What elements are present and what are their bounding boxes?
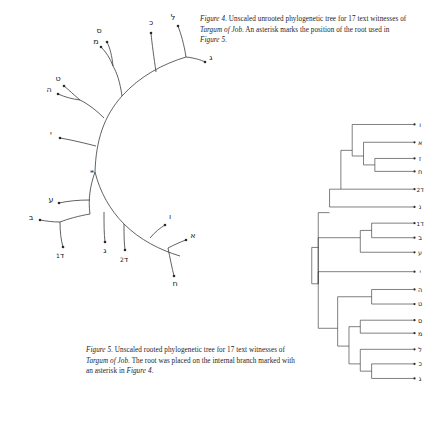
tip-label-samekh: ס: [96, 26, 101, 35]
root-asterisk-marker: *: [90, 168, 95, 178]
tip-label-dalet-2: 2ד: [120, 255, 129, 264]
rooted-tip-label-dalet-2: 2ד: [417, 186, 425, 194]
rooted-tip-label-chet: ח: [418, 168, 422, 176]
figure4-caption-part1: . Unscaled unrooted phylogenetic tree fo…: [225, 15, 406, 23]
tip-label-tet: ט: [55, 74, 60, 83]
tip-label-mem: מ: [93, 37, 98, 46]
tip-label-he: ה: [46, 85, 51, 94]
rooted-tip-dots: [413, 123, 415, 379]
rooted-tip-label-vav: ו: [419, 121, 421, 129]
tip-label-kaf: כ: [149, 18, 153, 27]
tip-label-chet: ח: [172, 279, 177, 288]
rooted-tip-label-lamed: ל: [418, 346, 422, 354]
tip-label-ayin: ע: [48, 195, 53, 204]
figure4-caption-end: .: [225, 36, 227, 44]
figure5-label: Figure 5: [86, 346, 111, 354]
figure4-crossref: Figure 5: [200, 36, 225, 44]
rooted-tip-label-dalet-1: 1ד: [417, 220, 425, 228]
rooted-tree-svg: ו א ז ח 2ד נ 1ד ב ע י ה ט ס מ ל כ ג: [296, 118, 444, 393]
rooted-tip-label-nun: נ: [419, 203, 422, 211]
tip-label-yod: י: [50, 129, 52, 138]
rooted-tip-label-he: ה: [418, 286, 422, 294]
tip-label-lamed: ל: [171, 13, 176, 22]
figure4-caption-part2: . An asterisk marks the position of the …: [242, 26, 389, 34]
unrooted-branches: [40, 26, 205, 276]
tip-label-bet: ב: [29, 213, 34, 222]
rooted-tip-label-gimel: ג: [419, 375, 422, 383]
figure5-caption-end: .: [152, 367, 154, 375]
unrooted-phylogenetic-tree: * כ ל מ ס ט ה י ע ב 1ד ג 2ד ו א ח ג: [0, 0, 215, 290]
rooted-tip-label-tet: ט: [418, 300, 422, 308]
figure4-work-title: Targum of Job: [200, 26, 242, 34]
rooted-tip-label-zayin: ז: [419, 155, 421, 163]
rooted-tip-label-yod: י: [419, 268, 421, 276]
rooted-tip-label-ayin: ע: [418, 249, 422, 257]
figure5-work-title: Targum of Job: [86, 357, 128, 365]
tip-label-gimel: ג: [103, 246, 107, 255]
tip-label-alef: א: [190, 231, 195, 240]
rooted-branches: [312, 124, 414, 378]
unrooted-tree-svg: * כ ל מ ס ט ה י ע ב 1ד ג 2ד ו א ח ג: [0, 0, 215, 290]
rooted-tip-label-alef: א: [418, 139, 422, 147]
unrooted-tip-dots: [39, 25, 207, 278]
rooted-tip-label-samekh: ס: [418, 317, 422, 325]
tip-label-gimel-right: ג: [209, 53, 213, 62]
tip-label-vav: ו: [169, 212, 171, 221]
figure4-caption: Figure 4. Unscaled unrooted phylogenetic…: [200, 14, 408, 46]
figure5-caption-part1: . Unscaled rooted phylogenetic tree for …: [111, 346, 285, 354]
figure-page: * כ ל מ ס ט ה י ע ב 1ד ג 2ד ו א ח ג: [0, 0, 444, 435]
rooted-tip-label-kaf: כ: [418, 360, 422, 368]
tip-label-dalet-1: 1ד: [56, 251, 65, 260]
rooted-tip-label-bet: ב: [418, 234, 422, 242]
figure5-caption: Figure 5. Unscaled rooted phylogenetic t…: [86, 345, 300, 377]
rooted-phylogenetic-tree: ו א ז ח 2ד נ 1ד ב ע י ה ט ס מ ל כ ג: [296, 118, 444, 393]
figure5-crossref: Figure 4: [126, 367, 151, 375]
rooted-tip-label-mem: מ: [418, 330, 422, 338]
figure4-label: Figure 4: [200, 15, 225, 23]
rooted-tip-labels: ו א ז ח 2ד נ 1ד ב ע י ה ט ס מ ל כ ג: [417, 121, 425, 383]
